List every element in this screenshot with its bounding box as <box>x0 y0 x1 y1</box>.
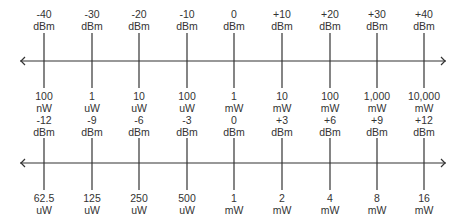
dbm-unit: dBm <box>394 126 454 138</box>
power-value: 16 <box>394 192 454 204</box>
dbm-value: +12 <box>394 114 454 126</box>
axis-3db-steps <box>0 0 465 224</box>
scale-3db-steps: -12dBm62.5uW-9dBm125uW-6dBm250uW-3dBm500… <box>0 0 465 224</box>
power-label: 16mW <box>394 192 454 216</box>
dbm-label: +12dBm <box>394 114 454 138</box>
power-unit: mW <box>394 204 454 216</box>
